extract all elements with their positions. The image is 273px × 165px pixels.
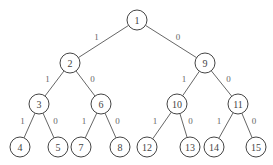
node-label: 1 — [135, 15, 140, 26]
tree-node-3: 3 — [29, 94, 49, 114]
edge-label: 1 — [182, 74, 187, 84]
edge-label: 0 — [252, 116, 257, 126]
node-label: 14 — [209, 142, 219, 153]
edge-label: 1 — [94, 32, 99, 42]
tree-node-8: 8 — [110, 137, 130, 157]
edge-label: 0 — [176, 32, 181, 42]
tree-node-13: 13 — [180, 137, 200, 157]
tree-node-12: 12 — [137, 137, 157, 157]
node-label: 2 — [68, 58, 73, 69]
node-label: 9 — [203, 58, 208, 69]
edge-label: 0 — [188, 116, 193, 126]
tree-node-14: 14 — [204, 137, 224, 157]
edge-label: 1 — [82, 116, 87, 126]
edge-6-7 — [85, 113, 97, 138]
node-label: 3 — [37, 99, 42, 110]
node-label: 5 — [56, 142, 61, 153]
binary-tree-diagram: 10101010101010 129361011457812131415 — [0, 0, 273, 165]
tree-node-10: 10 — [167, 94, 187, 114]
edge-label: 1 — [20, 116, 25, 126]
edge-3-4 — [24, 113, 35, 138]
tree-node-1: 1 — [127, 10, 147, 30]
nodes: 129361011457812131415 — [10, 10, 266, 157]
tree-node-4: 4 — [10, 137, 30, 157]
node-label: 10 — [172, 99, 182, 110]
edge-label: 0 — [90, 74, 95, 84]
edge-label: 0 — [226, 74, 231, 84]
edge-label: 0 — [53, 116, 58, 126]
edge-label: 1 — [217, 116, 222, 126]
tree-node-2: 2 — [60, 53, 80, 73]
tree-node-6: 6 — [91, 94, 111, 114]
edge-11-15 — [242, 113, 252, 138]
node-label: 12 — [142, 142, 152, 153]
node-label: 6 — [99, 99, 104, 110]
edge-label: 0 — [115, 116, 120, 126]
edge-label: 1 — [153, 116, 158, 126]
tree-node-9: 9 — [195, 53, 215, 73]
edge-10-13 — [180, 114, 187, 138]
tree-node-7: 7 — [71, 137, 91, 157]
tree-node-11: 11 — [228, 94, 248, 114]
node-label: 4 — [18, 142, 23, 153]
edges: 10101010101010 — [20, 25, 257, 138]
node-label: 13 — [185, 142, 195, 153]
node-label: 15 — [251, 142, 261, 153]
node-label: 11 — [233, 99, 243, 110]
node-label: 7 — [79, 142, 84, 153]
edge-1-9 — [145, 25, 196, 57]
edge-label: 1 — [45, 74, 50, 84]
tree-node-5: 5 — [48, 137, 68, 157]
edge-1-2 — [78, 25, 128, 57]
tree-node-15: 15 — [246, 137, 266, 157]
node-label: 8 — [118, 142, 123, 153]
